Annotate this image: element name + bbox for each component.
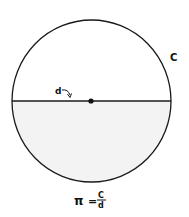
curved-arrow-icon	[62, 90, 70, 95]
diameter-label: d	[55, 86, 61, 96]
circle-diagram: d C π = C d	[0, 0, 189, 217]
formula-denominator: d	[98, 201, 104, 210]
circumference-label: C	[170, 52, 177, 63]
formula-numerator: C	[98, 191, 104, 200]
formula-pi: π	[74, 194, 84, 208]
center-point	[88, 98, 93, 103]
formula-equals: =	[88, 195, 97, 208]
shaded-lower-half	[12, 101, 171, 182]
